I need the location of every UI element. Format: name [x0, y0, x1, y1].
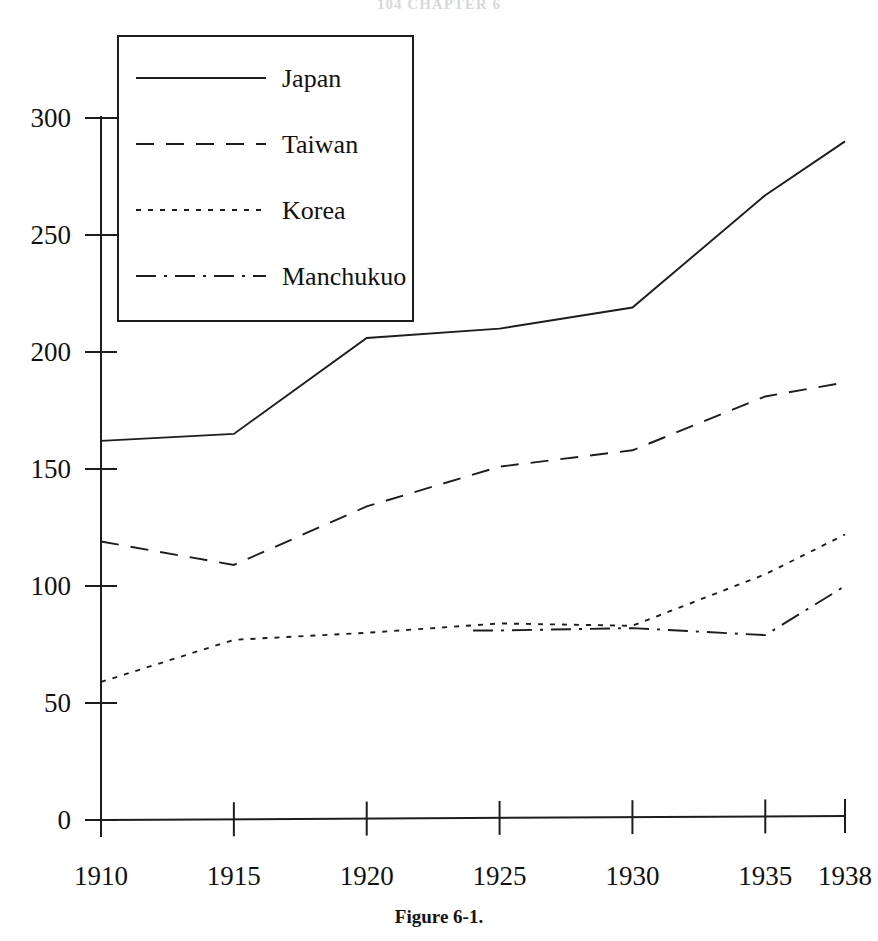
y-tick-label: 150: [31, 454, 72, 484]
x-tick-label: 1915: [207, 861, 261, 891]
x-tick-label: 1920: [340, 861, 394, 891]
chart-legend: JapanTaiwanKoreaManchukuo: [118, 36, 413, 321]
x-axis: [101, 816, 845, 820]
x-tick-label: 1925: [473, 861, 527, 891]
figure-caption: Figure 6-1.: [0, 906, 878, 928]
x-tick-label: 1930: [605, 861, 659, 891]
x-tick-label: 1938: [818, 861, 872, 891]
legend-label-korea: Korea: [282, 196, 346, 225]
y-tick-label: 200: [31, 337, 72, 367]
y-tick-label: 100: [31, 571, 72, 601]
y-tick-label: 250: [31, 220, 72, 250]
y-tick-label: 50: [44, 688, 71, 718]
line-chart: 050100150200250300 191019151920192519301…: [0, 0, 878, 900]
y-tick-label: 300: [31, 103, 72, 133]
series-line-korea: [101, 535, 845, 682]
y-axis-labels: 050100150200250300: [31, 103, 72, 835]
legend-label-japan: Japan: [282, 64, 341, 93]
series-line-manchukuo: [473, 586, 845, 635]
y-tick-label: 0: [58, 805, 72, 835]
legend-label-manchukuo: Manchukuo: [282, 262, 406, 291]
figure-page: 104 CHAPTER 6 050100150200250300 1910191…: [0, 0, 878, 941]
legend-label-taiwan: Taiwan: [282, 130, 358, 159]
x-axis-labels: 1910191519201925193019351938: [74, 861, 872, 891]
x-tick-label: 1910: [74, 861, 128, 891]
series-line-taiwan: [101, 382, 845, 565]
x-tick-label: 1935: [738, 861, 792, 891]
